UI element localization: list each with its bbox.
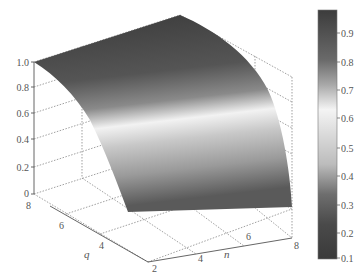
colorbar-tick-0.2: 0.2 bbox=[341, 228, 354, 239]
colorbar-tick-0.3: 0.3 bbox=[341, 200, 354, 211]
colorbar-tick-0.5: 0.5 bbox=[341, 143, 354, 154]
z-tick-0.4: 0.4 bbox=[17, 134, 30, 145]
q-tick-6: 6 bbox=[59, 220, 64, 231]
n-tick-4: 4 bbox=[198, 253, 203, 264]
q-tick-2: 2 bbox=[152, 263, 157, 274]
n-axis-label: n bbox=[224, 248, 230, 260]
colorbar-tick-0.8: 0.8 bbox=[341, 57, 354, 68]
z-tick-1.0: 1.0 bbox=[17, 57, 30, 68]
colorbar-tick-0.9: 0.9 bbox=[341, 28, 354, 39]
colorbar-tick-0.7: 0.7 bbox=[341, 85, 354, 96]
z-tick-0.6: 0.6 bbox=[17, 108, 30, 119]
colorbar-tick-0.6: 0.6 bbox=[341, 113, 354, 124]
q-tick-4: 4 bbox=[99, 240, 104, 251]
q-axis-label: q bbox=[84, 248, 90, 260]
q-axis bbox=[50, 206, 148, 262]
z-tick-labels: 1.0 0.8 0.6 0.4 0.2 0 bbox=[17, 57, 30, 199]
n-tick-6: 6 bbox=[246, 231, 251, 242]
n-tick-8: 8 bbox=[294, 240, 299, 251]
z-tick-0.8: 0.8 bbox=[17, 82, 30, 93]
n-tick-labels: 4 6 8 bbox=[198, 231, 299, 264]
colorbar-tick-0.4: 0.4 bbox=[341, 171, 354, 182]
n-axis bbox=[148, 238, 292, 262]
surface-plot: 1.0 0.8 0.6 0.4 0.2 0 8 6 4 2 q 4 6 8 n bbox=[0, 0, 360, 277]
q-tick-8: 8 bbox=[26, 200, 31, 211]
z-tick-0: 0 bbox=[24, 188, 29, 199]
z-tick-0.2: 0.2 bbox=[17, 162, 30, 173]
surface bbox=[34, 15, 292, 212]
colorbar-tick-0.1: 0.1 bbox=[341, 253, 354, 264]
colorbar: 0.9 0.8 0.7 0.6 0.5 0.4 0.3 0.2 0.1 bbox=[318, 10, 354, 264]
colorbar-strip bbox=[318, 10, 337, 259]
